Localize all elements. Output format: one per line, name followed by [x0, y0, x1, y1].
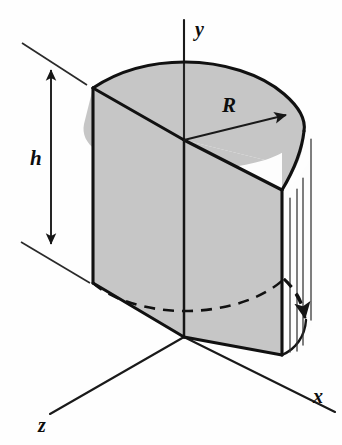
figure-container: R h y x z [0, 0, 342, 445]
radius-label: R [221, 93, 236, 117]
axis-z-label: z [37, 414, 46, 436]
height-ext-line-bottom [21, 242, 90, 283]
axis-y-label: y [193, 18, 204, 41]
half-cylinder-diagram: R h y x z [0, 0, 342, 445]
axis-z [50, 337, 184, 414]
axis-x-label: x [312, 385, 323, 407]
height-label: h [30, 146, 42, 170]
height-ext-line-top [22, 43, 87, 85]
